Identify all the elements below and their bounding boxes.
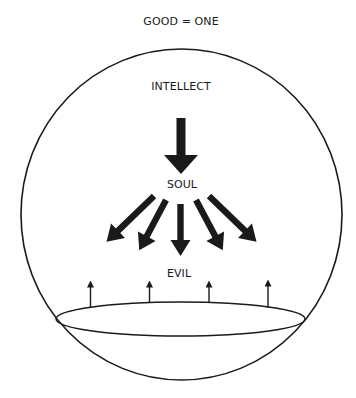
evil-label: EVIL <box>167 267 191 280</box>
soul-arrows <box>100 189 264 256</box>
main-arrow-icon <box>164 118 198 174</box>
soul-label: SOUL <box>167 178 197 191</box>
soul-arrow-icon <box>171 204 191 256</box>
soul-arrow-icon <box>130 195 174 255</box>
soul-arrow-icon <box>187 195 231 255</box>
diagram-title: GOOD = ONE <box>143 15 218 28</box>
intellect-label: INTELLECT <box>151 80 211 93</box>
diagram-canvas <box>0 0 356 398</box>
